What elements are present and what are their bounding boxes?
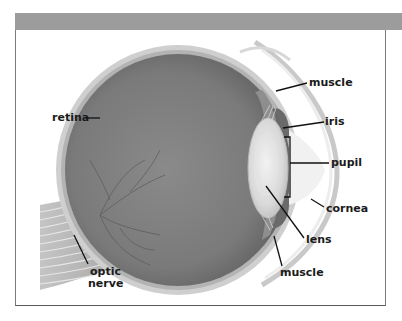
label-nerve: nerve	[88, 278, 123, 290]
label-cornea: cornea	[326, 203, 368, 215]
label-pupil: pupil	[331, 157, 362, 169]
eye-diagram-figure: retina muscle iris pupil cornea lens mus…	[0, 0, 402, 321]
label-retina: retina	[52, 112, 89, 124]
label-muscle-bottom: muscle	[280, 267, 324, 279]
label-muscle-top: muscle	[309, 77, 353, 89]
lens	[248, 118, 288, 218]
label-iris: iris	[325, 116, 345, 128]
label-lens: lens	[306, 234, 332, 246]
